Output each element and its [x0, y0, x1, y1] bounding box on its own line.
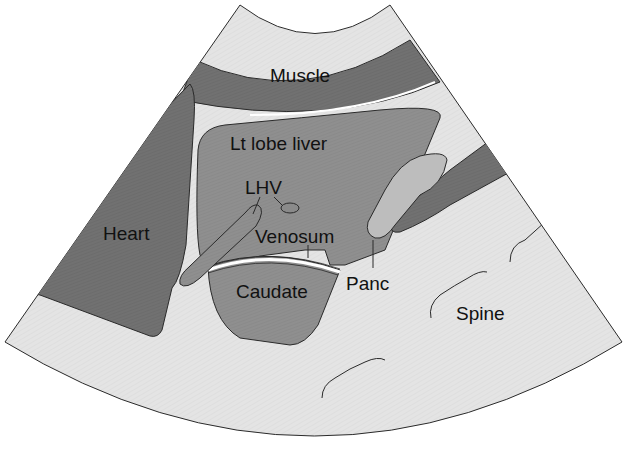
ultrasound-diagram: Muscle Lt lobe liver LHV Heart Venosum C…: [0, 0, 630, 457]
label-heart: Heart: [103, 223, 150, 244]
label-lt-lobe-liver: Lt lobe liver: [230, 133, 328, 154]
label-muscle: Muscle: [270, 65, 330, 86]
label-spine: Spine: [456, 303, 505, 324]
lhv-small-vessel: [281, 203, 299, 213]
label-lhv: LHV: [245, 177, 282, 198]
label-caudate: Caudate: [236, 281, 308, 302]
label-venosum: Venosum: [255, 226, 334, 247]
label-panc: Panc: [346, 273, 389, 294]
